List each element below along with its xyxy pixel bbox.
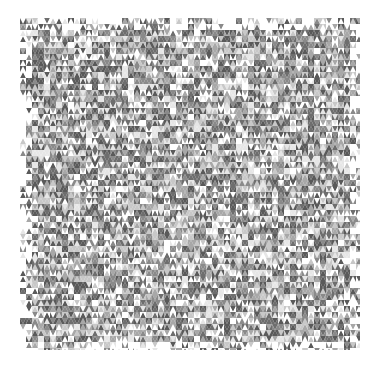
triangle-mosaic-pattern [20, 18, 360, 350]
